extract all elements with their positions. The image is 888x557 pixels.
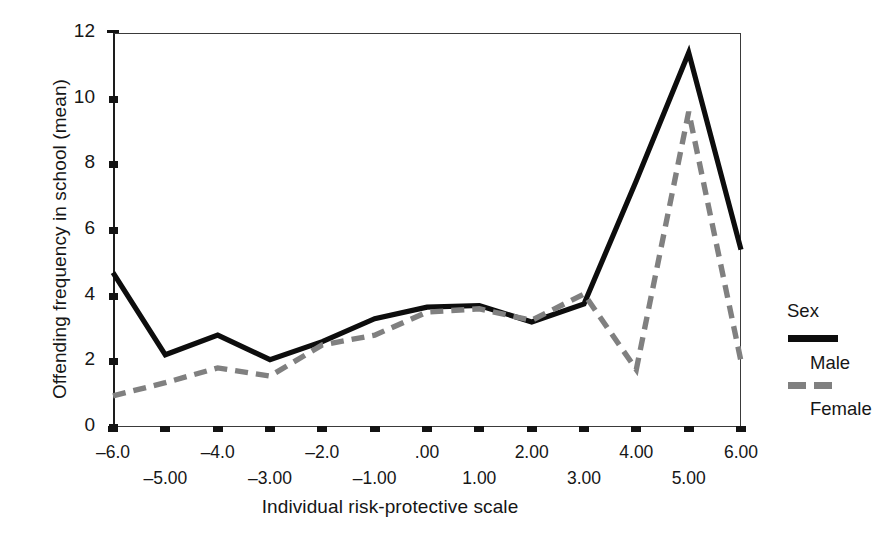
legend-label-male: Male xyxy=(810,352,850,374)
legend-item-female: Female xyxy=(786,378,886,424)
series-line-male xyxy=(113,53,741,360)
legend-title: Sex xyxy=(787,300,886,322)
x-axis-title: Individual risk-protective scale xyxy=(0,496,780,518)
chart-container: Offending frequency in school (mean) 024… xyxy=(0,0,888,557)
legend-swatch-solid-icon xyxy=(788,335,838,342)
legend-label-female: Female xyxy=(810,398,872,420)
data-lines-layer xyxy=(0,0,888,557)
legend: Sex Male Female xyxy=(786,300,886,424)
legend-item-male: Male xyxy=(786,332,886,378)
legend-swatch-dashed-icon xyxy=(788,382,838,389)
